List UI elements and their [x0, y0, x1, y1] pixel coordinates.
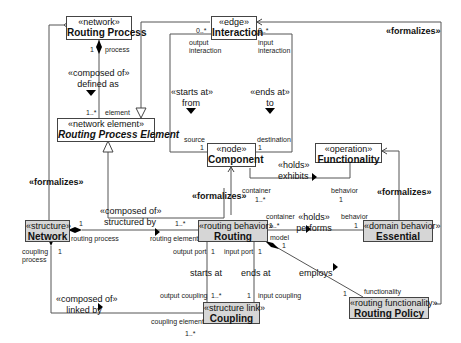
class-name: Routing: [199, 231, 267, 243]
mult: 0..*: [258, 27, 269, 35]
relation-holds-performs: «holds» performs: [296, 212, 332, 235]
stereotype: «domain behavior»: [364, 221, 432, 231]
stereotype: «edge»: [212, 17, 256, 27]
role: coupling element: [151, 318, 204, 326]
label: structured by: [104, 217, 156, 227]
mult: 0..*: [196, 27, 207, 35]
class-routing[interactable]: «routing behavior» Routing: [198, 220, 268, 242]
role: model: [270, 234, 289, 242]
class-routing-policy[interactable]: «routing functionality» Routing Policy: [349, 297, 429, 319]
role: destination: [257, 136, 291, 144]
class-name: Component: [208, 154, 255, 166]
stereotype: «routing functionality»: [350, 298, 428, 308]
role: routing process: [71, 235, 119, 243]
role: process: [105, 46, 130, 54]
stereotype: «holds»: [278, 160, 310, 170]
class-name: Network: [26, 231, 69, 243]
mult: 1..*: [255, 196, 266, 204]
class-name: Functionality: [316, 154, 381, 166]
stereotype: «composed of»: [68, 68, 130, 78]
class-name: Routing Process Element: [58, 129, 154, 141]
stereotype: «composed of»: [100, 206, 162, 216]
mult: 1: [354, 222, 358, 230]
class-functionality[interactable]: «operation» Functionality: [315, 143, 382, 163]
mult: 1..*: [185, 330, 196, 338]
mult: 1: [282, 242, 286, 250]
role: input interaction: [258, 39, 298, 54]
stereotype: «routing behavior»: [199, 221, 267, 231]
role: routing element: [150, 235, 198, 243]
stereotype: «structure link»: [204, 303, 259, 313]
class-interaction[interactable]: «edge» Interaction: [211, 16, 257, 40]
relation-composed-of-defined-as: «composed of» defined as: [68, 68, 128, 91]
mult: 1: [79, 220, 83, 228]
role: input port: [224, 248, 253, 256]
class-name: Essential: [364, 231, 432, 243]
mult: 1..*: [86, 109, 97, 117]
role: output port: [173, 248, 206, 256]
label: defined as: [77, 79, 119, 89]
stereotype: «ends at»: [250, 87, 290, 97]
stereotype: «network»: [67, 17, 131, 27]
formalizes-label: «formalizes»: [377, 187, 432, 197]
role: functionality: [364, 288, 401, 296]
mult: 1: [258, 144, 262, 152]
role: container: [266, 213, 295, 221]
role: coupling process: [22, 248, 48, 263]
mult: 1..*: [269, 222, 280, 230]
mult: 1: [211, 248, 215, 256]
class-routing-process-element[interactable]: «network element» Routing Process Elemen…: [57, 118, 155, 142]
mult: 1: [258, 248, 262, 256]
class-component[interactable]: «node» Component: [207, 143, 256, 167]
stereotype: «network element»: [58, 119, 154, 129]
class-name: Interaction: [212, 27, 256, 39]
formalizes-label: «formalizes»: [386, 26, 441, 36]
label: linked by: [66, 305, 102, 315]
mult: 1: [58, 248, 62, 256]
mult: 1: [339, 196, 343, 204]
class-essential[interactable]: «domain behavior» Essential: [363, 220, 433, 242]
role: input coupling: [258, 292, 301, 300]
role: source: [184, 136, 205, 144]
mult: 1..*: [211, 292, 222, 300]
label: to: [266, 98, 274, 108]
class-routing-process[interactable]: «network» Routing Process: [66, 16, 132, 40]
class-network[interactable]: «structure» Network: [25, 220, 70, 242]
stereotype: «node»: [208, 144, 255, 154]
stereotype: «composed of»: [56, 294, 118, 304]
formalizes-label: «formalizes»: [192, 191, 247, 201]
class-name: Routing Process: [67, 27, 131, 39]
relation-starts-at-routing: starts at: [190, 268, 222, 279]
role: behavior: [341, 213, 368, 221]
role: output coupling: [160, 292, 207, 300]
relation-holds-exhibits: «holds» exhibits: [278, 160, 318, 183]
role: element: [105, 109, 130, 117]
relation-composed-of-linked-by: «composed of» linked by: [56, 294, 112, 317]
label: exhibits: [278, 171, 309, 181]
relation-employs: employs: [299, 268, 333, 279]
mult: 1..*: [175, 220, 186, 228]
relation-composed-of-structured-by: «composed of» structured by: [100, 206, 160, 229]
mult: 1: [200, 144, 204, 152]
relation-starts-at: «starts at» from: [171, 87, 211, 110]
relation-ends-at-routing: ends at: [241, 268, 271, 279]
mult: 1: [247, 292, 251, 300]
role: output interaction: [189, 39, 229, 54]
formalizes-label: «formalizes»: [29, 177, 84, 187]
label: performs: [296, 223, 332, 233]
relation-ends-at: «ends at» to: [250, 87, 290, 110]
mult: 1: [90, 46, 94, 54]
class-coupling[interactable]: «structure link» Coupling: [203, 302, 260, 324]
class-name: Coupling: [204, 313, 259, 325]
label: from: [182, 98, 200, 108]
stereotype: «starts at»: [171, 87, 213, 97]
stereotype: «holds»: [298, 212, 330, 222]
stereotype: «structure»: [26, 221, 69, 231]
mult: 1: [343, 290, 347, 298]
class-name: Routing Policy: [350, 308, 428, 320]
stereotype: «operation»: [316, 144, 381, 154]
role: behavior: [331, 187, 358, 195]
